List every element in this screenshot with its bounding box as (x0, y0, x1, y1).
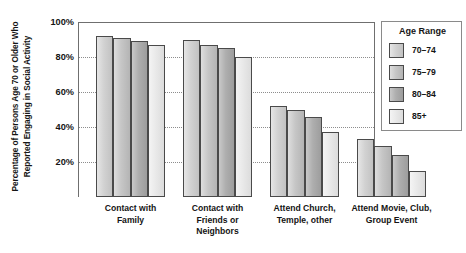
legend-item-label: 75–79 (412, 67, 436, 77)
legend-swatch-icon (389, 43, 404, 58)
bar (183, 40, 200, 198)
bar (218, 48, 235, 197)
bar-group (96, 22, 165, 197)
bar (392, 155, 409, 197)
bar (270, 106, 287, 197)
bar (287, 110, 304, 198)
legend-item[interactable]: 80–84 (389, 86, 461, 104)
x-category-label-line: Attend Movie, Club, (340, 203, 444, 215)
legend-item[interactable]: 85+ (389, 108, 461, 126)
bar (409, 171, 426, 197)
legend-swatch-icon (389, 87, 404, 102)
bar (357, 139, 374, 197)
legend-item-label: 85+ (412, 111, 427, 121)
y-tick-label: 80% (32, 52, 74, 62)
x-category-label-line: Group Event (340, 215, 444, 227)
y-axis-tick-labels: 20%40%60%80%100% (28, 0, 74, 210)
legend-swatch-icon (389, 65, 404, 80)
legend-item-label: 80–84 (412, 89, 436, 99)
legend: Age Range 70–7475–7980–8485+ (381, 21, 462, 131)
bar (374, 146, 391, 197)
bar (322, 132, 339, 197)
bar (235, 57, 252, 197)
bar-group (270, 22, 339, 197)
y-tick-label: 60% (32, 87, 74, 97)
y-tick-label: 40% (32, 122, 74, 132)
legend-item[interactable]: 70–74 (389, 42, 461, 60)
bar (305, 117, 322, 198)
bar (113, 38, 130, 197)
bar (131, 41, 148, 197)
legend-item[interactable]: 75–79 (389, 64, 461, 82)
legend-swatch-icon (389, 109, 404, 124)
bar (200, 45, 217, 197)
x-category-label-line: Neighbors (166, 226, 270, 238)
bar (148, 45, 165, 197)
y-tick-label: 100% (32, 17, 74, 27)
legend-title: Age Range (382, 26, 463, 36)
y-tick-label: 20% (32, 157, 74, 167)
legend-item-label: 70–74 (412, 45, 436, 55)
x-category-label: Attend Movie, Club,Group Event (340, 203, 444, 226)
bar-group (183, 22, 252, 197)
bar-chart-figure: Percentage of Persons Age 70 or Older Wh… (0, 0, 466, 253)
bar (96, 36, 113, 197)
